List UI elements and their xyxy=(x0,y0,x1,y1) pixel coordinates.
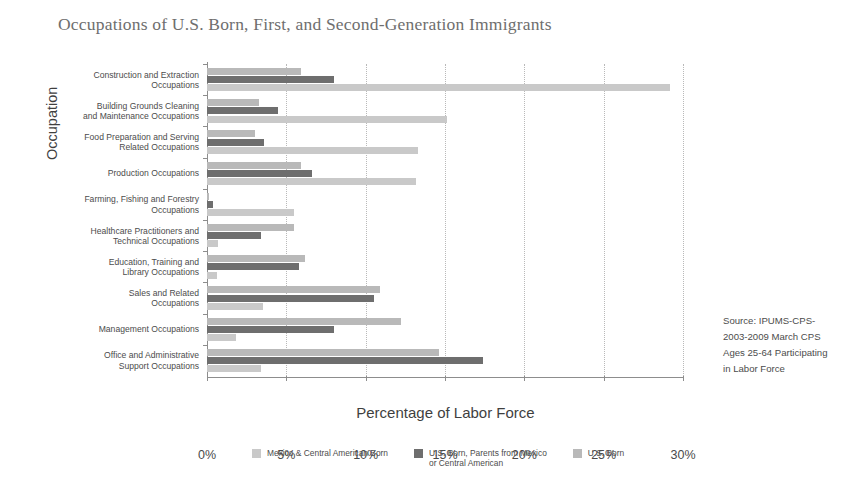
chart-page: Occupations of U.S. Born, First, and Sec… xyxy=(0,0,867,482)
bar xyxy=(207,147,418,154)
y-axis-category-label-text: Management Occupations xyxy=(81,324,199,334)
y-axis-tick xyxy=(203,251,207,252)
y-axis-category-label-text: Education, Training and Library Occupati… xyxy=(81,257,199,277)
bar xyxy=(207,334,236,341)
bar xyxy=(207,303,263,310)
bar xyxy=(207,68,301,75)
x-axis-tick xyxy=(604,376,605,381)
legend-swatch xyxy=(252,449,261,458)
bar xyxy=(207,326,334,333)
chart-legend: Mexico & Central American BornU.S. Born,… xyxy=(252,448,624,468)
source-note-line: in Labor Force xyxy=(723,361,853,377)
y-axis-category-label-text: Production Occupations xyxy=(81,168,199,178)
y-axis-category-label-text: Farming, Fishing and Forestry Occupation… xyxy=(81,194,199,214)
bar xyxy=(207,240,218,247)
bar xyxy=(207,224,294,231)
y-axis-tick xyxy=(203,314,207,315)
legend-item: Mexico & Central American Born xyxy=(252,448,388,458)
x-axis-tick-label: 30% xyxy=(670,448,695,462)
x-axis-tick xyxy=(207,376,208,381)
y-axis-category-label-text: Food Preparation and Serving Related Occ… xyxy=(81,132,199,152)
legend-label: U.S. Born, Parents from Mexico or Centra… xyxy=(429,448,547,468)
y-axis-tick xyxy=(203,64,207,65)
bar xyxy=(207,99,259,106)
bar xyxy=(207,272,217,279)
bar xyxy=(207,107,278,114)
gridline xyxy=(445,64,446,378)
bar xyxy=(207,201,213,208)
bar xyxy=(207,318,401,325)
x-axis-tick xyxy=(286,376,287,381)
x-axis-title: Percentage of Labor Force xyxy=(207,404,684,421)
legend-swatch xyxy=(573,449,582,458)
legend-item: U.S. Born, Parents from Mexico or Centra… xyxy=(414,448,547,468)
y-axis-category-label-text: Construction and Extraction Occupations xyxy=(81,69,199,89)
bar xyxy=(207,349,439,356)
bar xyxy=(207,263,299,270)
bar xyxy=(207,255,305,262)
gridline xyxy=(524,64,525,378)
gridline xyxy=(604,64,605,378)
bar xyxy=(207,209,294,216)
x-axis-tick xyxy=(445,376,446,381)
bar xyxy=(207,295,374,302)
bar xyxy=(207,286,380,293)
bar xyxy=(207,162,301,169)
y-axis-tick xyxy=(203,220,207,221)
x-axis-tick-label: 0% xyxy=(198,448,216,462)
gridline xyxy=(366,64,367,378)
source-note-line: Ages 25-64 Participating xyxy=(723,345,853,361)
bar xyxy=(207,178,416,185)
y-axis-category-label-text: Building Grounds Cleaning and Maintenanc… xyxy=(81,101,199,121)
bar xyxy=(207,193,209,200)
y-axis-tick xyxy=(203,189,207,190)
legend-label: Mexico & Central American Born xyxy=(267,448,388,458)
y-axis-category-label-text: Sales and Related Occupations xyxy=(81,288,199,308)
source-note: Source: IPUMS-CPS-2003-2009 March CPSAge… xyxy=(723,313,853,377)
bar xyxy=(207,76,334,83)
x-axis-tick xyxy=(683,376,684,381)
bar xyxy=(207,130,255,137)
bar xyxy=(207,357,483,364)
y-axis-title: Occupation xyxy=(44,87,60,160)
gridline xyxy=(683,64,684,378)
source-note-line: Source: IPUMS-CPS- xyxy=(723,313,853,329)
bar xyxy=(207,139,264,146)
plot-area: 0%5%10%15%20%25%30%Construction and Extr… xyxy=(207,64,683,376)
legend-item: U.S. Born xyxy=(573,448,624,458)
source-note-line: 2003-2009 March CPS xyxy=(723,329,853,345)
y-axis-tick xyxy=(203,126,207,127)
y-axis-tick xyxy=(203,345,207,346)
legend-label: U.S. Born xyxy=(588,448,624,458)
x-axis-tick xyxy=(366,376,367,381)
y-axis-tick xyxy=(203,282,207,283)
bar xyxy=(207,365,261,372)
legend-swatch xyxy=(414,449,423,458)
y-axis-tick xyxy=(203,158,207,159)
bar xyxy=(207,84,670,91)
bar xyxy=(207,116,447,123)
chart-title: Occupations of U.S. Born, First, and Sec… xyxy=(58,14,552,35)
bar xyxy=(207,232,261,239)
y-axis-category-label-text: Healthcare Practitioners and Technical O… xyxy=(81,225,199,245)
y-axis-tick xyxy=(203,95,207,96)
y-axis-category-label-text: Office and Administrative Support Occupa… xyxy=(81,350,199,370)
x-axis-tick xyxy=(524,376,525,381)
bar xyxy=(207,170,312,177)
